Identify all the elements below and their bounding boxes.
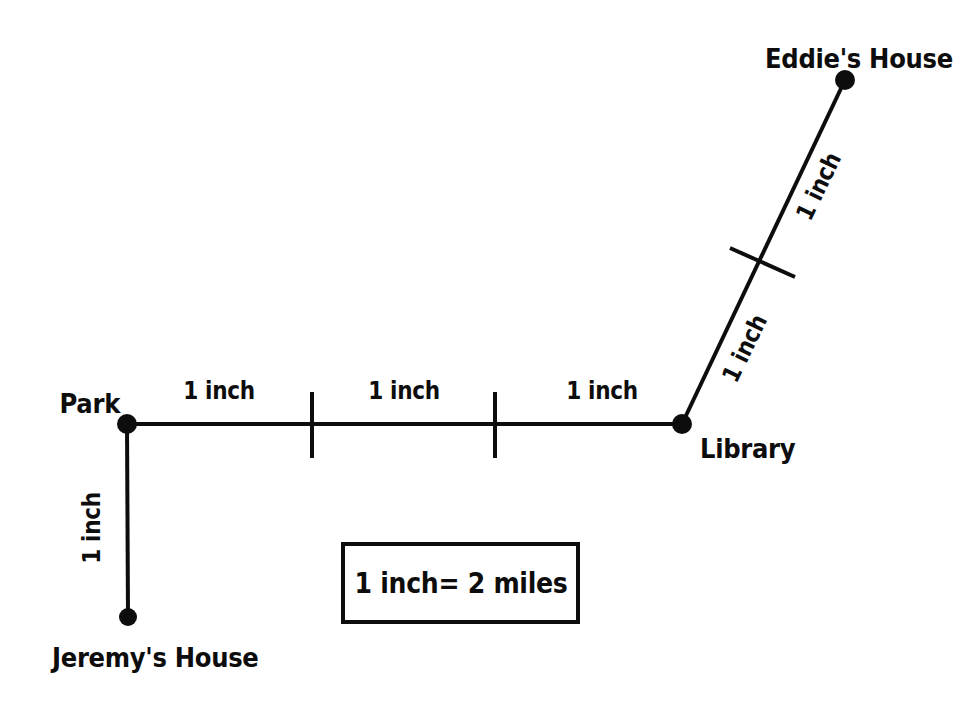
map-diagram: Eddie's House Library Park Jeremy's Hous… — [0, 0, 970, 705]
node-dot-jeremys-house — [119, 608, 137, 626]
node-dot-library — [672, 414, 692, 434]
label-library: Library — [700, 433, 796, 464]
seg-label-park-to-tick1: 1 inch — [183, 377, 255, 405]
seg-label-diagonal-tick-to-eddies-house: 1 inch — [791, 148, 848, 225]
edge-park-to-jeremys-house — [127, 424, 128, 617]
edge-library-to-eddies-house — [682, 80, 845, 424]
label-eddies-house: Eddie's House — [765, 43, 953, 74]
map-canvas: Eddie's House Library Park Jeremy's Hous… — [0, 0, 970, 705]
label-park: Park — [60, 388, 122, 419]
label-jeremys-house: Jeremy's House — [50, 642, 259, 673]
seg-label-library-to-diagonal-tick: 1 inch — [717, 310, 774, 387]
legend-scale-text: 1 inch= 2 miles — [355, 567, 568, 600]
seg-label-tick2-to-library: 1 inch — [566, 377, 638, 405]
seg-label-park-to-jeremys-house: 1 inch — [78, 492, 106, 564]
seg-label-tick1-to-tick2: 1 inch — [368, 377, 440, 405]
node-dot-park — [117, 414, 137, 434]
